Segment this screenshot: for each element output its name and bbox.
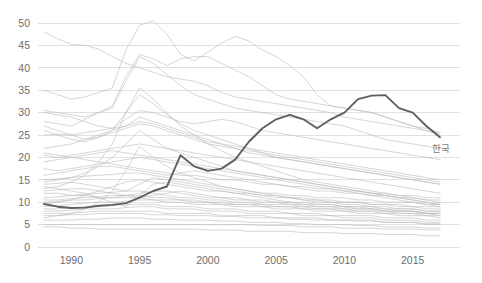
y-tick-label: 0 [24,241,30,253]
x-tick-label: 2015 [401,254,425,266]
chart-background [0,0,482,283]
chart-container: 05101520253035404550 1990199520002005201… [0,0,482,283]
y-tick-label: 50 [18,17,30,29]
y-tick-label: 20 [18,151,30,163]
series-annotation-label: 한국 [432,143,450,154]
x-tick-label: 1995 [128,254,152,266]
x-tick-label: 2000 [196,254,220,266]
y-tick-label: 5 [24,218,30,230]
x-tick-label: 1990 [60,254,84,266]
y-tick-label: 35 [18,84,30,96]
spaghetti-line-chart: 05101520253035404550 1990199520002005201… [0,0,482,283]
x-tick-label: 2010 [333,254,357,266]
y-tick-label: 15 [18,174,30,186]
y-tick-label: 45 [18,39,30,51]
y-tick-label: 30 [18,106,30,118]
y-tick-label: 10 [18,196,30,208]
x-tick-label: 2005 [264,254,288,266]
y-tick-label: 25 [18,129,30,141]
series-annotations: 한국 [432,143,450,154]
y-tick-label: 40 [18,62,30,74]
